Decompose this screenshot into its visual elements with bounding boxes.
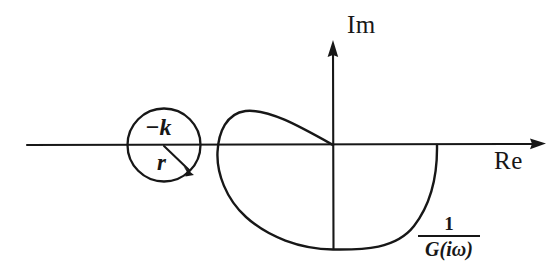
- imaginary-axis-arrowhead: [328, 40, 339, 57]
- real-axis-line: [27, 144, 540, 145]
- circle-center-label: −k: [145, 115, 172, 139]
- radius-arrow: [164, 146, 194, 177]
- radius-label: r: [157, 151, 166, 174]
- imaginary-axis-label: Im: [347, 12, 376, 37]
- curve-label-denominator: G(iω): [418, 237, 480, 261]
- curve-label-numerator: 1: [418, 214, 480, 235]
- real-axis: [27, 138, 546, 149]
- imaginary-axis-line: [333, 47, 334, 249]
- real-axis-arrowhead: [530, 138, 546, 149]
- radius-arrow-shaft: [164, 146, 189, 170]
- nyquist-plot-figure: Im Re −k r 1 G(iω): [0, 0, 558, 277]
- real-axis-label: Re: [494, 148, 523, 173]
- nyquist-curve: [217, 111, 437, 250]
- curve-label-fraction: 1 G(iω): [418, 214, 480, 261]
